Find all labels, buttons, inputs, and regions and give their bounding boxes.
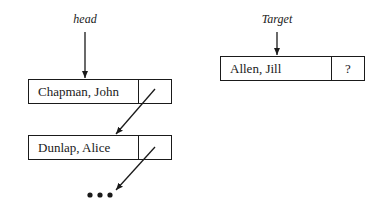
next-pointer-arrow-icon: [116, 89, 155, 134]
ellipsis-dots-icon: [87, 192, 112, 197]
arrows-layer: [0, 0, 383, 214]
next-pointer-arrow-icon: [116, 147, 155, 190]
